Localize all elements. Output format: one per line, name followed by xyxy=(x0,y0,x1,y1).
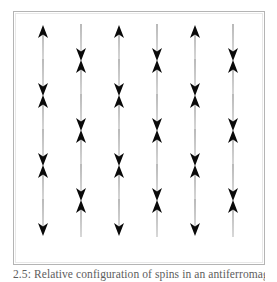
spin-arrow-down xyxy=(220,24,246,62)
arrow-glyph xyxy=(30,24,56,62)
spin-arrow-up xyxy=(68,129,94,167)
spin-arrow-down xyxy=(106,129,132,167)
spin-arrow-up xyxy=(68,59,94,97)
arrow-glyph xyxy=(220,59,246,97)
spin-arrow-down xyxy=(144,164,170,202)
spin-arrow-up xyxy=(30,24,56,62)
spin-arrow-down xyxy=(144,94,170,132)
arrow-glyph xyxy=(30,164,56,202)
figure-caption: 2.5: Relative configuration of spins in … xyxy=(13,268,265,281)
spin-arrow-up xyxy=(144,59,170,97)
spin-arrow-down xyxy=(68,94,94,132)
arrow-glyph xyxy=(144,24,170,62)
arrow-glyph xyxy=(30,129,56,167)
arrow-glyph xyxy=(182,129,208,167)
arrow-glyph xyxy=(106,129,132,167)
spin-arrow-up xyxy=(182,24,208,62)
figure-root: 2.5: Relative configuration of spins in … xyxy=(0,0,277,282)
arrow-glyph xyxy=(220,24,246,62)
arrow-glyph xyxy=(182,199,208,237)
spin-arrow-up xyxy=(220,59,246,97)
arrow-glyph xyxy=(144,129,170,167)
arrow-glyph xyxy=(182,59,208,97)
spin-arrow-up xyxy=(220,199,246,237)
spin-arrow-up xyxy=(30,94,56,132)
spin-arrow-down xyxy=(30,59,56,97)
spin-arrow-up xyxy=(68,199,94,237)
arrow-glyph xyxy=(106,59,132,97)
arrow-glyph xyxy=(30,199,56,237)
arrow-glyph xyxy=(68,24,94,62)
arrow-glyph xyxy=(30,94,56,132)
arrow-glyph xyxy=(106,164,132,202)
spin-arrow-up xyxy=(220,129,246,167)
arrow-glyph xyxy=(68,94,94,132)
spin-arrow-down xyxy=(68,24,94,62)
spin-arrow-down xyxy=(30,129,56,167)
spin-arrow-up xyxy=(106,164,132,202)
spin-arrow-down xyxy=(106,59,132,97)
spin-arrow-up xyxy=(30,164,56,202)
spin-lattice-grid xyxy=(14,12,264,264)
spin-arrow-down xyxy=(182,59,208,97)
arrow-glyph xyxy=(182,164,208,202)
arrow-glyph xyxy=(144,199,170,237)
spin-arrow-up xyxy=(106,94,132,132)
arrow-glyph xyxy=(30,59,56,97)
spin-arrow-up xyxy=(144,129,170,167)
spin-arrow-down xyxy=(220,94,246,132)
arrow-glyph xyxy=(144,164,170,202)
spin-arrow-down xyxy=(144,24,170,62)
spin-arrow-down xyxy=(106,199,132,237)
arrow-glyph xyxy=(106,94,132,132)
arrow-glyph xyxy=(182,24,208,62)
arrow-glyph xyxy=(220,199,246,237)
arrow-glyph xyxy=(68,164,94,202)
spin-arrow-up xyxy=(182,164,208,202)
arrow-glyph xyxy=(220,164,246,202)
arrow-glyph xyxy=(68,199,94,237)
arrow-glyph xyxy=(68,129,94,167)
figure-caption-area: 2.5: Relative configuration of spins in … xyxy=(13,268,265,282)
arrow-glyph xyxy=(220,94,246,132)
arrow-glyph xyxy=(106,199,132,237)
spin-arrow-up xyxy=(106,24,132,62)
spin-arrow-down xyxy=(30,199,56,237)
arrow-glyph xyxy=(144,59,170,97)
spin-arrow-down xyxy=(220,164,246,202)
spin-arrow-down xyxy=(182,199,208,237)
arrow-glyph xyxy=(68,59,94,97)
spin-arrow-up xyxy=(182,94,208,132)
arrow-glyph xyxy=(220,129,246,167)
arrow-glyph xyxy=(144,94,170,132)
spin-arrow-up xyxy=(144,199,170,237)
spin-arrow-down xyxy=(68,164,94,202)
figure-panel-frame xyxy=(13,11,265,265)
spin-arrow-down xyxy=(182,129,208,167)
arrow-glyph xyxy=(106,24,132,62)
arrow-glyph xyxy=(182,94,208,132)
